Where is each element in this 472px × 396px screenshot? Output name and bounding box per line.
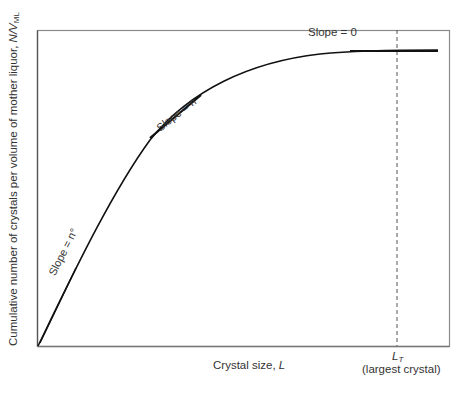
slope-zero-label: Slope = 0	[308, 26, 357, 38]
x-axis-label: Crystal size, L	[213, 359, 285, 371]
lt-label: LT	[392, 350, 403, 364]
origin-tangent-line	[40, 268, 76, 343]
y-axis-label: Cumulative number of crystals per volume…	[7, 12, 21, 346]
chart-canvas	[0, 0, 472, 396]
plot-frame	[38, 31, 450, 347]
cumulative-curve	[38, 50, 438, 346]
largest-crystal-label: (largest crystal)	[362, 363, 441, 375]
